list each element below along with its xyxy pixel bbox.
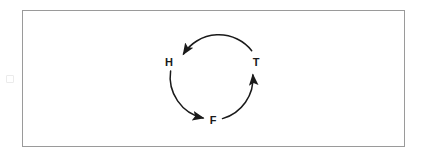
edge-h-to-f (170, 71, 203, 118)
cycle-diagram: H F T (0, 0, 426, 158)
edge-t-to-h (184, 35, 252, 54)
figure-canvas: H F T (0, 0, 426, 158)
node-label-f: F (210, 114, 217, 126)
node-label-h: H (165, 56, 173, 68)
edge-f-to-t (223, 75, 254, 119)
node-label-t: T (253, 56, 260, 68)
